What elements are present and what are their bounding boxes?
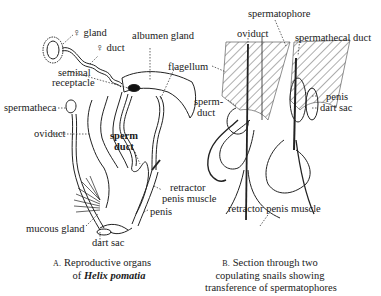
label-penis-a: penis — [150, 206, 172, 217]
label-seminal-receptacle-2: receptacle — [52, 77, 95, 88]
label-sperm-duct-b-2: duct — [197, 107, 215, 118]
label-duct: ♀ duct — [96, 42, 125, 53]
species-name: Helix pomatia — [84, 270, 146, 281]
label-sperm-duct-1: sperm — [110, 130, 138, 141]
diagram-artwork — [0, 0, 381, 296]
label-mucous-gland: mucous gland — [26, 223, 85, 234]
caption-b: B. Section through two copulating snails… — [205, 257, 335, 294]
label-albumen-gland: albumen gland — [132, 30, 194, 41]
label-sperm-duct-2: duct — [114, 141, 134, 152]
label-oviduct: oviduct — [34, 128, 66, 139]
label-penis-b: penis — [326, 91, 348, 102]
label-flagellum: flagellum — [168, 61, 208, 72]
label-gland: ♀ gland — [73, 27, 107, 38]
caption-a-line2: of Helix pomatia — [46, 270, 158, 282]
caption-a: A. Reproductive organs of Helix pomatia — [46, 257, 158, 282]
label-spermathecal-duct: spermathecal duct — [295, 32, 371, 43]
caption-a-line1: A. Reproductive organs — [46, 257, 158, 270]
label-retractor-2: penis muscle — [162, 193, 217, 204]
caption-b-line1: B. Section through two — [205, 257, 335, 270]
label-sperm-duct-b-1: sperm- — [194, 96, 223, 107]
caption-b-line3: transference of spermatophores — [205, 282, 335, 294]
figure-b-drawing — [208, 20, 350, 226]
label-retractor-1: retractor — [170, 182, 206, 193]
label-oviduct-b: oviduct — [237, 28, 269, 39]
label-dart-sac-a: dart sac — [92, 237, 124, 248]
label-dart-sac-b: dart sac — [320, 102, 352, 113]
label-spermatophore: spermatophore — [248, 8, 310, 19]
caption-b-line2: copulating snails showing — [205, 270, 335, 282]
label-spermatheca: spermatheca — [4, 102, 56, 113]
label-retractor-penis-muscle-b: retractor penis muscle — [228, 203, 321, 214]
